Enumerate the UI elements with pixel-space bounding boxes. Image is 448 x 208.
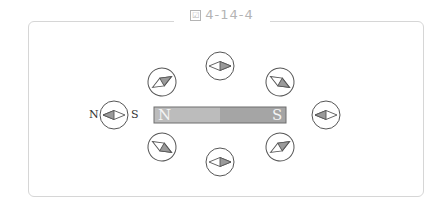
magnet-north-label: N	[158, 106, 171, 124]
compass-north-label: N	[89, 108, 99, 121]
compass-top	[206, 52, 234, 80]
bar-magnet	[154, 107, 286, 123]
compass-left	[100, 101, 128, 129]
compass-bottom	[206, 148, 234, 176]
compass-south-label: S	[131, 108, 139, 121]
magnet-south-label: S	[272, 106, 282, 124]
compass-top-right	[261, 63, 299, 101]
compass-right	[312, 101, 340, 129]
compass-bottom-right	[261, 128, 299, 166]
compass-bottom-left	[143, 128, 181, 166]
compass-top-left	[143, 63, 181, 101]
magnet-diagram	[0, 0, 448, 208]
